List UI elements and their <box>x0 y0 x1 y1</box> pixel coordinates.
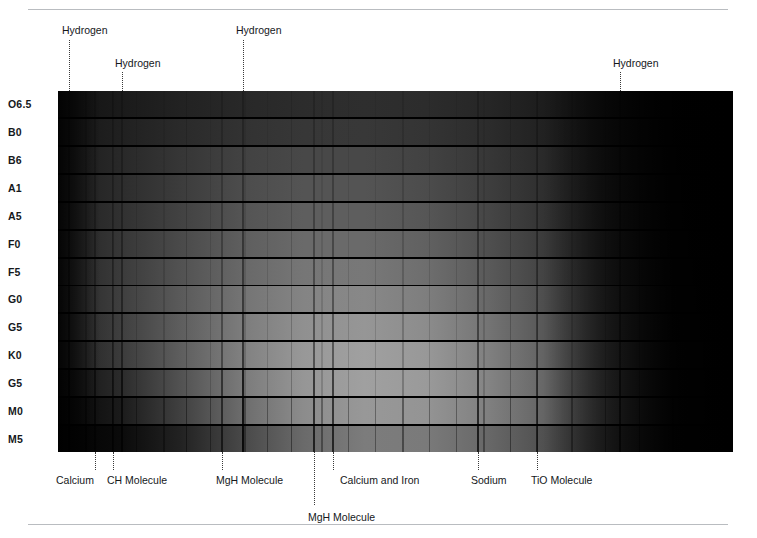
absorption-line <box>210 147 211 173</box>
absorption-line <box>537 314 538 340</box>
absorption-line <box>639 259 640 285</box>
spectral-class-label: F5 <box>8 266 54 278</box>
absorption-line-group <box>58 91 733 117</box>
absorption-line <box>510 426 511 452</box>
absorption-line <box>112 426 113 452</box>
absorption-line <box>94 286 95 312</box>
absorption-line <box>332 259 333 285</box>
absorption-line <box>121 370 122 396</box>
absorption-line <box>619 147 620 173</box>
absorption-line <box>267 147 268 173</box>
absorption-line <box>291 370 292 396</box>
absorption-line <box>483 175 485 201</box>
absorption-line <box>85 119 87 145</box>
absorption-line <box>244 231 246 257</box>
absorption-line <box>375 426 376 452</box>
absorption-line <box>571 119 573 145</box>
spectrum-strip <box>58 231 733 257</box>
absorption-line <box>672 314 674 340</box>
absorption-line <box>121 398 122 424</box>
absorption-line <box>510 147 511 173</box>
absorption-line <box>605 314 606 340</box>
absorption-line <box>672 342 674 368</box>
absorption-line <box>477 398 478 424</box>
absorption-line <box>456 175 457 201</box>
absorption-line <box>605 398 606 424</box>
absorption-line <box>313 426 314 452</box>
absorption-line <box>429 398 430 424</box>
absorption-line <box>313 398 314 424</box>
absorption-line <box>121 314 122 340</box>
absorption-line-group <box>58 286 733 312</box>
bottom-divider-rule <box>28 524 728 525</box>
absorption-line <box>221 426 222 452</box>
absorption-line <box>605 231 606 257</box>
absorption-line <box>163 175 165 201</box>
absorption-line <box>483 286 485 312</box>
absorption-line <box>267 398 268 424</box>
spectrum-strip <box>58 203 733 229</box>
absorption-line <box>537 231 538 257</box>
absorption-line <box>402 231 404 257</box>
absorption-line <box>163 314 165 340</box>
absorption-line <box>210 259 211 285</box>
annotation-label: Hydrogen <box>613 57 659 70</box>
absorption-line <box>639 342 640 368</box>
absorption-line <box>619 342 620 368</box>
absorption-line <box>672 398 674 424</box>
absorption-line <box>477 342 478 368</box>
absorption-line <box>186 147 187 173</box>
absorption-line <box>112 91 113 117</box>
absorption-line <box>332 398 333 424</box>
absorption-line <box>163 119 165 145</box>
absorption-line <box>94 398 95 424</box>
absorption-line <box>375 259 376 285</box>
absorption-line <box>321 314 323 340</box>
absorption-line <box>136 398 137 424</box>
absorption-line <box>402 259 404 285</box>
absorption-line <box>510 342 511 368</box>
absorption-line <box>477 175 478 201</box>
absorption-line <box>136 314 137 340</box>
absorption-line <box>510 203 511 229</box>
absorption-line <box>605 203 606 229</box>
absorption-line <box>244 314 246 340</box>
absorption-line <box>186 91 187 117</box>
absorption-line <box>483 119 485 145</box>
absorption-line <box>163 147 165 173</box>
absorption-line <box>483 342 485 368</box>
absorption-line <box>136 147 137 173</box>
absorption-line <box>429 91 430 117</box>
absorption-line <box>321 398 323 424</box>
spectral-class-label: B0 <box>8 126 54 138</box>
absorption-line <box>483 203 485 229</box>
absorption-line <box>483 259 485 285</box>
absorption-line <box>210 119 211 145</box>
absorption-line <box>605 119 606 145</box>
annotation-label: MgH Molecule <box>216 474 283 487</box>
absorption-line <box>348 119 349 145</box>
absorption-line <box>291 259 292 285</box>
absorption-line <box>402 398 404 424</box>
absorption-line <box>112 119 113 145</box>
absorption-line <box>537 147 538 173</box>
absorption-line <box>136 370 137 396</box>
absorption-line <box>112 398 113 424</box>
absorption-line <box>121 231 122 257</box>
absorption-line <box>121 426 122 452</box>
absorption-line <box>571 147 573 173</box>
absorption-line <box>332 426 333 452</box>
absorption-line <box>639 91 640 117</box>
spectrum-strip <box>58 91 733 117</box>
absorption-line <box>429 175 430 201</box>
absorption-line <box>210 398 211 424</box>
absorption-line <box>348 342 349 368</box>
absorption-line <box>68 175 70 201</box>
absorption-line <box>332 342 333 368</box>
absorption-line <box>291 286 292 312</box>
absorption-line <box>375 119 376 145</box>
absorption-line <box>429 203 430 229</box>
absorption-line <box>112 175 113 201</box>
absorption-line <box>68 119 70 145</box>
absorption-line <box>619 286 620 312</box>
